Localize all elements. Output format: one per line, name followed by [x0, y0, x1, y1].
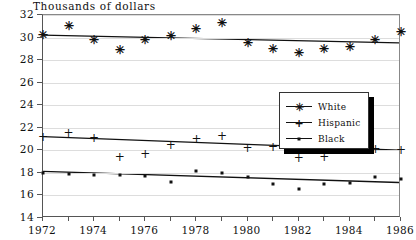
data-point-hispanic: + — [294, 152, 304, 164]
data-point-hispanic: + — [191, 133, 201, 145]
data-point-black — [169, 180, 172, 183]
x-axis-tick — [247, 217, 248, 221]
x-axis-tick-label: 1982 — [284, 224, 312, 236]
data-point-black — [67, 173, 70, 176]
chart-legend: ✳White+HispanicBlack — [279, 92, 369, 149]
gridline — [43, 195, 399, 196]
data-point-white: ✳ — [115, 44, 125, 56]
data-point-white: ✳ — [191, 23, 201, 35]
data-point-hispanic: + — [64, 127, 74, 139]
legend-label: White — [318, 102, 346, 112]
y-axis-tick-label: 16 — [20, 188, 34, 200]
x-axis-tick — [349, 217, 350, 221]
x-axis-tick — [42, 217, 43, 221]
y-axis-tick-label: 22 — [20, 121, 34, 133]
x-axis-tick — [119, 217, 120, 221]
data-point-black — [374, 176, 377, 179]
data-point-black — [195, 169, 198, 172]
legend-item-black[interactable]: Black — [286, 131, 345, 146]
data-point-black — [144, 175, 147, 178]
y-axis-tick-label: 28 — [20, 53, 34, 65]
y-axis-tick — [37, 194, 42, 195]
y-axis-tick-label: 18 — [20, 166, 34, 178]
data-point-white: ✳ — [64, 20, 74, 32]
x-axis-tick-label: 1980 — [233, 224, 261, 236]
data-point-hispanic: + — [217, 130, 227, 142]
data-point-white: ✳ — [319, 43, 329, 55]
x-axis-tick — [144, 217, 145, 221]
data-point-hispanic: + — [166, 139, 176, 151]
data-point-hispanic: + — [396, 144, 406, 156]
data-point-hispanic: + — [89, 132, 99, 144]
data-point-white: ✳ — [89, 34, 99, 46]
legend-item-hispanic[interactable]: +Hispanic — [286, 115, 361, 130]
x-axis-tick-label: 1978 — [181, 224, 209, 236]
data-point-white: ✳ — [166, 30, 176, 42]
y-axis-tick — [37, 59, 42, 60]
y-axis-tick-label: 32 — [20, 8, 34, 20]
gridline — [43, 60, 399, 61]
legend-label: Black — [318, 134, 345, 144]
data-point-hispanic: + — [115, 151, 125, 163]
x-axis-tick — [221, 217, 222, 221]
data-point-black — [221, 171, 224, 174]
y-axis-tick-label: 26 — [20, 76, 34, 88]
data-point-white: ✳ — [268, 43, 278, 55]
x-axis-tick — [374, 217, 375, 221]
data-point-white: ✳ — [370, 34, 380, 46]
y-axis-tick-label: 14 — [20, 211, 34, 223]
y-axis-tick — [37, 14, 42, 15]
x-axis-tick — [323, 217, 324, 221]
y-axis-tick-label: 24 — [20, 98, 34, 110]
chart-title: Thousands of dollars — [33, 0, 156, 12]
data-point-black — [246, 176, 249, 179]
y-axis-tick-label: 30 — [20, 31, 34, 43]
x-axis-tick — [93, 217, 94, 221]
data-point-black — [297, 187, 300, 190]
x-axis-tick — [272, 217, 273, 221]
x-axis-tick-label: 1986 — [386, 224, 414, 236]
x-axis-tick-label: 1972 — [28, 224, 56, 236]
x-axis-tick — [68, 217, 69, 221]
y-axis-tick-label: 20 — [20, 143, 34, 155]
y-axis-tick — [37, 127, 42, 128]
data-point-hispanic: + — [370, 143, 380, 155]
y-axis-tick — [37, 37, 42, 38]
data-point-hispanic: + — [140, 148, 150, 160]
legend-item-white[interactable]: ✳White — [286, 99, 346, 114]
gridline — [43, 83, 399, 84]
legend-marker-plus-icon: + — [286, 117, 312, 128]
y-axis-tick — [37, 104, 42, 105]
x-axis-tick — [298, 217, 299, 221]
data-point-white: ✳ — [38, 29, 48, 41]
y-axis-tick — [37, 149, 42, 150]
data-point-white: ✳ — [243, 37, 253, 49]
x-axis-tick-label: 1976 — [130, 224, 158, 236]
x-axis-tick-label: 1974 — [79, 224, 107, 236]
chart-root: Thousands of dollars ✳✳✳✳✳✳✳✳✳✳✳✳✳✳✳++++… — [0, 0, 416, 240]
x-axis-tick — [195, 217, 196, 221]
data-point-black — [323, 183, 326, 186]
data-point-white: ✳ — [294, 47, 304, 59]
y-axis-tick — [37, 82, 42, 83]
data-point-hispanic: + — [38, 131, 48, 143]
y-axis-tick — [37, 172, 42, 173]
data-point-hispanic: + — [243, 142, 253, 154]
legend-marker-dot-icon — [286, 133, 312, 144]
data-point-black — [93, 174, 96, 177]
data-point-white: ✳ — [217, 17, 227, 29]
data-point-hispanic: + — [268, 141, 278, 153]
legend-marker-asterisk-icon: ✳ — [286, 101, 312, 112]
data-point-black — [272, 183, 275, 186]
x-axis-tick — [170, 217, 171, 221]
data-point-white: ✳ — [345, 41, 355, 53]
x-axis-tick-label: 1984 — [335, 224, 363, 236]
data-point-black — [348, 182, 351, 185]
data-point-hispanic: + — [319, 151, 329, 163]
data-point-black — [118, 174, 121, 177]
data-point-white: ✳ — [140, 34, 150, 46]
data-point-black — [400, 177, 403, 180]
data-point-white: ✳ — [396, 26, 406, 38]
x-axis-tick — [400, 217, 401, 221]
legend-label: Hispanic — [318, 118, 361, 128]
